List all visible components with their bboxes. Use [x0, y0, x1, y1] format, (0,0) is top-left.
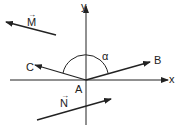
point-b-label: B [154, 55, 161, 66]
x-axis-label: x [169, 74, 175, 85]
origin-label: A [75, 84, 82, 95]
angle-alpha-label: α [102, 51, 108, 62]
vector-m-label: → M [27, 17, 36, 28]
vector-ac [35, 65, 86, 80]
vector-arrow-icon: → [61, 92, 69, 100]
vector-n [37, 99, 111, 120]
vector-ab [86, 62, 150, 80]
point-c-label: C [26, 62, 34, 73]
vector-n-label: → N [60, 98, 68, 109]
vector-arrow-icon: → [28, 11, 36, 19]
y-axis-label: y [81, 1, 87, 12]
